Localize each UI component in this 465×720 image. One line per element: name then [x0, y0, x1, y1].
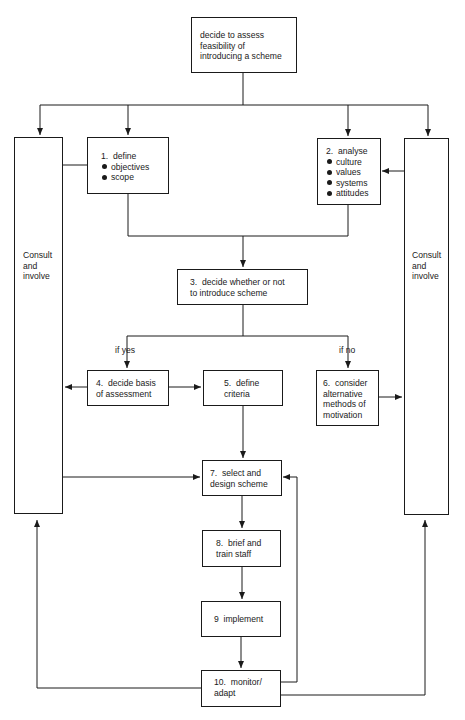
step-1-bullet: objectives	[101, 162, 168, 173]
step-2-bullet: systems	[326, 178, 380, 189]
step-10-monitor-box: 10. monitor/ adapt	[201, 670, 281, 707]
consult-involve-left-box: Consult and involve	[14, 137, 63, 514]
step-1-bullet: scope	[101, 172, 168, 183]
step-8-text: 8. brief and train staff	[216, 538, 280, 559]
step-5-text: 5. define criteria	[224, 378, 282, 399]
consult-involve-right-box: Consult and involve	[404, 138, 449, 515]
step-9-implement-box: 9 implement	[201, 601, 281, 637]
step-7-text: 7. select and design scheme	[210, 468, 281, 489]
step-1-define-box: 1. define objectives scope	[87, 137, 169, 194]
consult-left-text: Consult and involve	[23, 250, 62, 282]
step-9-text: 9 implement	[214, 614, 280, 625]
step-6-alternatives-box: 6. consider alternative methods of motiv…	[316, 370, 379, 426]
start-text: decide to assess feasibility of introduc…	[200, 30, 296, 62]
step-4-basis-box: 4. decide basis of assessment	[87, 370, 169, 406]
step-6-text: 6. consider alternative methods of motiv…	[323, 378, 378, 420]
branch-label-no: if no	[339, 345, 355, 355]
step-2-title: 2. analyse	[326, 146, 380, 157]
consult-right-text: Consult and involve	[412, 250, 448, 282]
step-1-title: 1. define	[101, 151, 168, 162]
step-7-select-design-box: 7. select and design scheme	[202, 460, 282, 496]
step-4-text: 4. decide basis of assessment	[96, 378, 168, 399]
step-2-bullet: values	[326, 167, 380, 178]
step-2-analyse-box: 2. analyse culture values systems attitu…	[317, 138, 381, 205]
step-3-text: 3. decide whether or not to introduce sc…	[190, 277, 307, 298]
start-box: decide to assess feasibility of introduc…	[191, 17, 297, 73]
step-8-brief-train-box: 8. brief and train staff	[202, 530, 281, 567]
step-3-decide-box: 3. decide whether or not to introduce sc…	[177, 269, 308, 305]
step-2-bullet: attitudes	[326, 188, 380, 199]
step-10-text: 10. monitor/ adapt	[214, 677, 280, 698]
step-5-criteria-box: 5. define criteria	[203, 370, 283, 406]
branch-label-yes: if yes	[115, 345, 135, 355]
step-2-bullet: culture	[326, 157, 380, 168]
